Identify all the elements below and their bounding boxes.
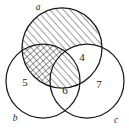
region-count-b-and-c: 6 — [62, 84, 68, 96]
set-label-c: c — [114, 115, 119, 125]
venn-diagram-canvas: a b c 5 4 6 7 — [0, 0, 129, 129]
set-label-b: b — [13, 113, 18, 123]
set-label-a: a — [36, 2, 41, 12]
region-count-b-only: 5 — [22, 76, 28, 88]
region-count-c-only: 7 — [96, 78, 102, 90]
region-count-a-and-c: 4 — [79, 51, 85, 63]
venn-diagram-figure: a b c 5 4 6 7 — [0, 0, 129, 129]
